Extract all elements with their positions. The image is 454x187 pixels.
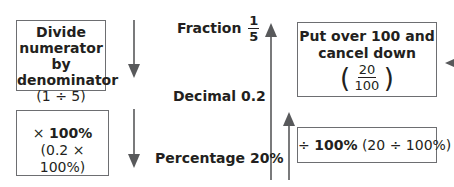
divide-100-box: ÷ 100% (20 ÷ 100%) — [297, 127, 437, 163]
box-example: ( 20 100 ) — [298, 63, 436, 92]
box-example: (20 ÷ 100%) — [362, 137, 451, 153]
box-operation: × 100% — [17, 125, 108, 142]
example-numerator: 20 — [358, 63, 377, 78]
example-fraction: 20 100 — [355, 63, 380, 92]
fraction-denominator: 5 — [249, 29, 258, 43]
box-title-line: Divide — [17, 24, 105, 40]
percentage-label: Percentage 20% — [155, 150, 283, 166]
up-arrow-icon — [283, 112, 295, 180]
down-arrow-icon — [128, 20, 140, 78]
box-example: (0.2 × 100%) — [17, 142, 108, 176]
down-arrow-icon — [128, 109, 140, 168]
box-op-value: 100% — [314, 137, 357, 153]
example-denominator: 100 — [355, 78, 380, 92]
close-paren: ) — [384, 63, 394, 93]
left-arrow-icon — [445, 59, 454, 67]
box-op-value: 100% — [49, 125, 92, 141]
decimal-label: Decimal 0.2 — [173, 88, 266, 104]
box-example: (1 ÷ 5) — [17, 88, 105, 104]
divide-symbol: ÷ — [298, 137, 310, 153]
box-title-line: numerator by — [17, 40, 105, 72]
multiply-100-box: × 100% (0.2 × 100%) — [16, 110, 109, 176]
fraction-label: Fraction 1 5 — [177, 14, 259, 43]
box-title-line: denominator — [17, 72, 105, 88]
fraction-value: 1 5 — [248, 14, 259, 43]
multiply-symbol: × — [33, 125, 45, 141]
box-title-line: Put over 100 and — [298, 28, 436, 45]
fraction-numerator: 1 — [248, 14, 259, 29]
box-title-line: cancel down — [298, 45, 436, 62]
fraction-label-text: Fraction — [177, 20, 241, 36]
divide-numerator-box: Divide numerator by denominator (1 ÷ 5) — [16, 20, 106, 91]
put-over-100-box: Put over 100 and cancel down ( 20 100 ) — [297, 22, 437, 97]
open-paren: ( — [340, 63, 350, 93]
